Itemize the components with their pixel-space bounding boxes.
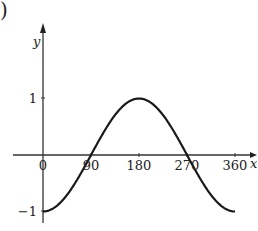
x-tick-label: 0 (39, 158, 47, 173)
x-tick-label: 270 (175, 158, 200, 173)
x-tick-label: 90 (83, 158, 100, 173)
x-tick-label: 180 (127, 158, 152, 173)
x-tick-labels: 090180270360 (39, 158, 248, 173)
sine-graph: y x 090180270360 1−1 (0, 0, 258, 231)
y-axis-label: y (32, 34, 41, 49)
y-axis-arrow-icon (40, 23, 46, 33)
y-tick-label: 1 (29, 91, 37, 106)
y-tick-label: −1 (18, 204, 37, 219)
x-axis-label: x (250, 156, 258, 171)
x-tick-label: 360 (223, 158, 248, 173)
